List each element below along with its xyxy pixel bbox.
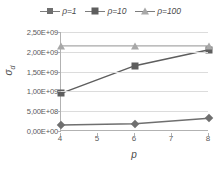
x-tick-label: 4 bbox=[50, 134, 70, 143]
x-tick-label: 5 bbox=[87, 134, 107, 143]
y-tick-label: 5,00E+08 bbox=[6, 107, 58, 116]
legend-label-rho-100: ρ=100 bbox=[157, 6, 181, 16]
y-axis-title: σd bbox=[3, 64, 16, 78]
legend-entry-rho-1[interactable]: ρ=1 bbox=[40, 6, 76, 16]
x-axis-title: p bbox=[60, 149, 208, 160]
legend-key-square-icon bbox=[85, 7, 105, 16]
y-tick-mark bbox=[58, 91, 61, 92]
legend-entry-rho-10[interactable]: ρ=10 bbox=[85, 6, 126, 16]
gridline bbox=[61, 111, 208, 112]
y-tick-mark bbox=[58, 32, 61, 33]
y-tick-mark bbox=[58, 111, 61, 112]
legend-key-triangle-icon bbox=[135, 7, 155, 16]
x-tick-label: 8 bbox=[198, 134, 218, 143]
x-tick-label: 6 bbox=[124, 134, 144, 143]
y-tick-label: 1,00E+09 bbox=[6, 87, 58, 96]
y-tick-label: 2,00E+09 bbox=[6, 47, 58, 56]
data-point-marker bbox=[57, 42, 65, 49]
legend-label-rho-1: ρ=1 bbox=[62, 6, 76, 16]
plot-area bbox=[60, 32, 208, 131]
data-point-marker bbox=[132, 62, 139, 69]
data-point-marker bbox=[131, 42, 139, 49]
y-tick-mark bbox=[58, 131, 61, 132]
chart-legend: ρ=1 ρ=10 ρ=100 bbox=[0, 6, 221, 16]
legend-entry-rho-100[interactable]: ρ=100 bbox=[135, 6, 181, 16]
y-axis-title-subscript: d bbox=[9, 66, 16, 70]
gridline bbox=[61, 72, 208, 73]
gridline bbox=[61, 32, 208, 33]
data-point-marker bbox=[205, 42, 213, 49]
legend-label-rho-10: ρ=10 bbox=[107, 6, 126, 16]
y-axis-tick-labels: 0,00E+005,00E+081,00E+091,50E+092,00E+09… bbox=[4, 32, 58, 131]
legend-key-diamond-icon bbox=[40, 7, 60, 16]
y-tick-label: 2,50E+09 bbox=[6, 28, 58, 37]
gridline bbox=[61, 91, 208, 92]
y-tick-mark bbox=[58, 52, 61, 53]
y-axis-title-base: σ bbox=[3, 69, 14, 75]
gridline bbox=[61, 52, 208, 53]
chart-container: ρ=1 ρ=10 ρ=100 0,00E+005,00E+081,00E+091… bbox=[0, 0, 221, 175]
x-tick-label: 7 bbox=[161, 134, 181, 143]
x-axis-tick-labels: 45678 bbox=[60, 133, 208, 147]
y-tick-mark bbox=[58, 72, 61, 73]
